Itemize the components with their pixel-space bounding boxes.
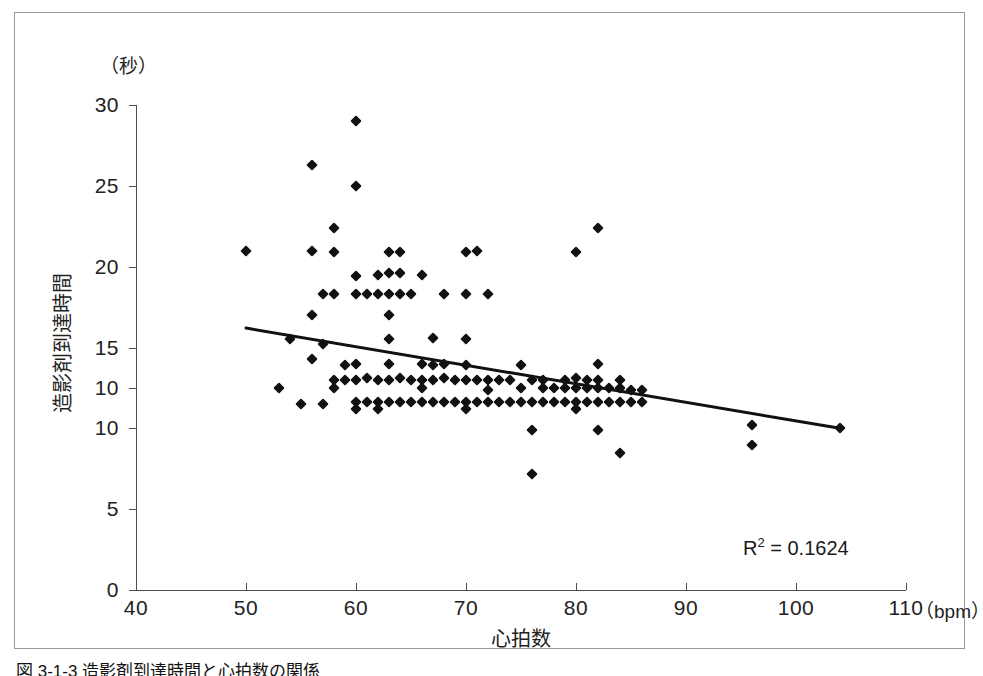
y-tick-mark — [129, 105, 136, 106]
y-tick-label: 0 — [15, 578, 119, 602]
r-squared-value: = 0.1624 — [765, 537, 849, 559]
y-tick-label: 30 — [15, 93, 119, 117]
x-tick-label: 100 — [778, 596, 815, 620]
y-tick-label: 10 — [15, 376, 119, 400]
x-axis-line — [136, 590, 906, 591]
y-tick-mark — [129, 388, 136, 389]
x-tick-label: 80 — [564, 596, 588, 620]
plot-area — [136, 105, 906, 590]
x-tick-label: 60 — [344, 596, 368, 620]
r-squared-prefix: R — [743, 537, 757, 559]
y-tick-mark — [129, 428, 136, 429]
x-axis-title: 心拍数 — [491, 623, 551, 652]
y-tick-label: 10 — [15, 416, 119, 440]
figure-frame: （秒） 造影剤到達時間 30252015101050 4050607080901… — [14, 12, 965, 649]
x-tick-label: 50 — [234, 596, 258, 620]
y-tick-label: 25 — [15, 174, 119, 198]
figure-root: （秒） 造影剤到達時間 30252015101050 4050607080901… — [0, 0, 983, 676]
y-tick-label: 15 — [15, 336, 119, 360]
x-axis-unit-label: （bpm） — [915, 596, 983, 623]
y-tick-mark — [129, 348, 136, 349]
x-tick-mark — [906, 583, 907, 590]
r-squared-annotation: R2 = 0.1624 — [743, 535, 849, 560]
y-tick-label: 5 — [15, 497, 119, 521]
x-tick-label: 90 — [674, 596, 698, 620]
y-tick-label: 20 — [15, 255, 119, 279]
r-squared-exponent: 2 — [757, 535, 764, 550]
x-tick-label: 70 — [454, 596, 478, 620]
y-tick-mark — [129, 509, 136, 510]
y-tick-mark — [129, 267, 136, 268]
y-axis-unit-label: （秒） — [100, 51, 157, 78]
figure-caption: 図 3-1-3 造影剤到達時間と心拍数の関係 — [16, 657, 320, 676]
trend-line — [136, 105, 906, 590]
y-tick-mark — [129, 186, 136, 187]
y-tick-mark — [129, 590, 136, 591]
x-tick-label: 40 — [124, 596, 148, 620]
